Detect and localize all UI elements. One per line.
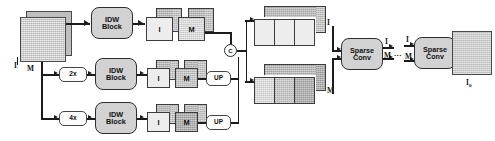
arrow-idw3-to-cubes [140,115,144,119]
conn-branch3-riser [238,57,240,122]
conn-bus-vertical [41,62,43,119]
sparse-conv-block-2[interactable]: Sparse Conv [414,37,456,69]
output-label: Io [466,78,471,88]
arrow-idw1-to-cubes [138,20,143,26]
concat-stack-mask [254,64,326,104]
concat-stack-image [254,6,326,46]
upsample-box-4x[interactable]: UP [206,115,231,130]
arrow-4x-to-idw3 [88,115,92,119]
output-label-subscript: o [469,82,472,88]
conn-branch3-to-concat [231,122,239,124]
idw-block-2-line2: Block [106,74,126,81]
branch-2x-cube-mask: M [175,60,207,88]
scale-box-4x[interactable]: 4x [59,111,87,126]
branch-full-cube-mask-label: M [178,17,205,41]
arrow-bus-to-4x [54,115,58,119]
sparse-conv-block-2-line2: Conv [426,53,444,60]
scale-box-2x[interactable]: 2x [59,67,87,82]
upsample-box-4x-label: UP [214,119,223,126]
input-label-image: I [14,61,17,70]
concat-stack-image-label: I [327,18,330,27]
branch-4x-cube-image-label: I [147,112,170,132]
branch-4x-cube-mask-label: M [175,112,198,132]
pipeline-ellipsis: ... [394,49,402,58]
input-plate-front [20,17,66,62]
conn-branch1-to-concat [205,32,231,34]
arrow-input-to-idw1 [84,20,89,26]
upsample-box-2x-label: UP [214,75,223,82]
arrow-bus-to-2x [54,71,58,75]
concat-node-label: C [228,48,232,54]
arrow-idw2-to-cubes [140,71,144,75]
sparse-conv-block-1[interactable]: Sparse Conv [341,38,383,70]
sconv2-in-image-label: I [406,35,409,44]
idw-block-1-line2: Block [102,23,122,30]
diagram-canvas: I M 2x 4x IDW Block IDW Block IDW Block [0,0,495,141]
scale-box-4x-label: 4x [69,115,76,122]
input-tick-i [17,57,18,65]
sconv1-out-image-label: I [385,37,388,46]
sconv1-out-mask-label: M [384,51,391,60]
branch-full-cube-mask: M [178,8,214,41]
scale-box-2x-label: 2x [69,71,76,78]
conn-stack-mask-riser [332,58,334,94]
idw-block-1[interactable]: IDW Block [91,7,133,39]
branch-2x-cube-image-label: I [147,68,170,88]
idw-block-3-line2: Block [106,118,126,125]
branch-full-cube-image-label: I [146,17,173,41]
arrow-sconv1-out-image [389,44,393,48]
conn-concat-split [246,20,248,82]
branch-2x-cube-mask-label: M [175,68,198,88]
arrow-2x-to-idw2 [88,71,92,75]
branch-full-cube-image: I [146,8,182,41]
output-plate [452,31,492,75]
idw-block-3[interactable]: IDW Block [95,102,137,134]
branch-4x-cube-mask: M [175,104,207,132]
sparse-conv-block-1-line2: Conv [353,54,371,61]
concat-node[interactable]: C [224,44,237,57]
input-label-mask: M [27,64,34,73]
upsample-box-2x[interactable]: UP [206,71,231,86]
idw-block-2[interactable]: IDW Block [95,58,137,90]
conn-stack-image-drop [332,26,334,51]
